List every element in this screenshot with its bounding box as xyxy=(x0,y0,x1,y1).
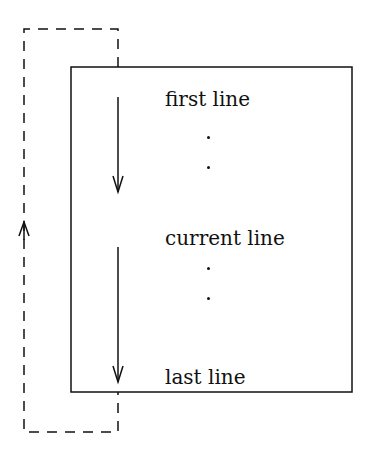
ellipsis-dot xyxy=(207,297,210,300)
ellipsis-dot xyxy=(207,166,210,169)
first-line-label: first line xyxy=(165,89,250,109)
down-arrow-icon-first xyxy=(113,97,123,192)
current-line-label: current line xyxy=(165,228,285,248)
ellipsis-dot xyxy=(207,136,210,139)
up-arrow-icon xyxy=(19,222,29,240)
ellipsis-dot xyxy=(207,267,210,270)
last-line-label: last line xyxy=(165,367,246,387)
down-arrow-icon-second xyxy=(113,247,123,382)
